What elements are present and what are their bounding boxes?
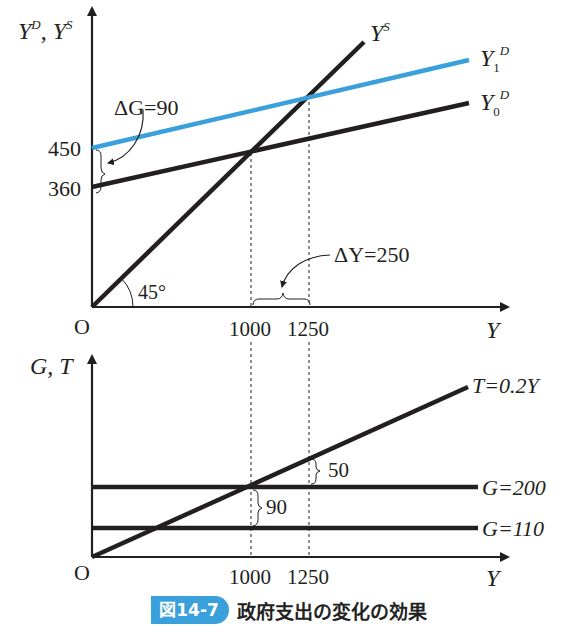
bottom-tick-1000: 1000	[229, 565, 271, 589]
delta-g-label: ΔG=90	[114, 95, 178, 120]
delta-y-brace	[253, 293, 310, 305]
angle-label: 45°	[138, 281, 166, 303]
tick-360: 360	[48, 176, 81, 201]
y0d-label: Y0D	[480, 87, 510, 119]
top-x-axis-label: Y	[486, 317, 502, 343]
top-tick-1250: 1250	[287, 317, 329, 341]
delta-y-label: ΔY=250	[334, 242, 409, 267]
ys-line	[92, 42, 364, 307]
top-origin-label: O	[74, 314, 90, 339]
gap-50-label: 50	[328, 458, 349, 482]
top-y-axis-label: YD, YS	[18, 17, 73, 44]
bottom-x-axis-label: Y	[486, 565, 502, 591]
g110-label: G=110	[482, 516, 544, 541]
figure-number-badge: 図14-7	[151, 596, 229, 624]
gap-90-brace	[253, 490, 262, 526]
g200-label: G=200	[482, 475, 546, 500]
top-tick-1000: 1000	[229, 317, 271, 341]
t-line	[92, 387, 468, 557]
bottom-y-axis-label: G, T	[30, 353, 74, 379]
figure-caption: 図14-7 政府支出の変化の効果	[0, 596, 578, 624]
bottom-chart: G, T T=0.2Y G=200 G=110 90 50 O 1000 125…	[30, 342, 546, 591]
figure-canvas: YD, YS YS Y1D Y0D 450 360 ΔG=90 ΔY=250 4…	[0, 0, 578, 631]
delta-y-arrow	[282, 255, 330, 287]
bottom-origin-label: O	[74, 560, 90, 585]
bottom-tick-1250: 1250	[287, 565, 329, 589]
top-chart: YD, YS YS Y1D Y0D 450 360 ΔG=90 ΔY=250 4…	[18, 8, 510, 343]
gap-90-label: 90	[266, 495, 287, 519]
ys-label: YS	[370, 19, 390, 46]
t-label: T=0.2Y	[472, 373, 542, 398]
gap-50-brace	[311, 459, 320, 484]
angle-arc	[121, 278, 133, 307]
figure-title: 政府支出の変化の効果	[237, 597, 427, 624]
tick-450: 450	[48, 136, 81, 161]
y1d-label: Y1D	[480, 43, 510, 75]
